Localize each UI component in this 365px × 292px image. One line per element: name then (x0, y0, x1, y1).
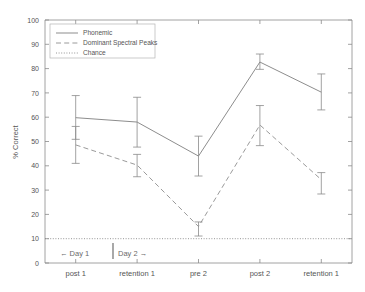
y-tick-label: 30 (31, 187, 39, 194)
legend: PhonemicDominant Spectral PeaksChance (50, 24, 158, 58)
day-2-label: Day 2 → (118, 249, 147, 258)
y-tick-label: 60 (31, 114, 39, 121)
y-tick-label: 10 (31, 235, 39, 242)
x-tick-label: pre 2 (190, 269, 207, 278)
day-1-label: ← Day 1 (60, 249, 89, 258)
y-tick-label: 100 (27, 17, 39, 24)
x-tick-label: post 1 (65, 269, 85, 278)
legend-label: Chance (83, 49, 106, 56)
y-tick-label: 80 (31, 65, 39, 72)
y-tick-label: 70 (31, 90, 39, 97)
x-tick-label: retention 1 (304, 269, 339, 278)
y-tick-label: 0 (35, 260, 39, 267)
legend-label: Dominant Spectral Peaks (83, 39, 158, 47)
chart-figure: 0102030405060708090100 post 1retention 1… (0, 0, 365, 292)
legend-label: Phonemic (83, 29, 113, 36)
y-tick-label: 40 (31, 162, 39, 169)
y-axis-title: % Correct (11, 124, 20, 158)
x-tick-label: retention 1 (119, 269, 154, 278)
y-tick-label: 90 (31, 41, 39, 48)
x-tick-label: post 2 (250, 269, 270, 278)
chart-canvas: 0102030405060708090100 post 1retention 1… (0, 0, 365, 292)
y-tick-label: 50 (31, 138, 39, 145)
y-tick-label: 20 (31, 211, 39, 218)
